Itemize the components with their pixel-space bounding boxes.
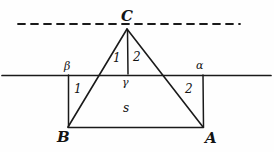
label-vertex-b: B: [57, 130, 70, 145]
diagram-canvas: [0, 0, 274, 152]
segment-alpha-a: [203, 75, 204, 127]
label-vertex-a: A: [205, 131, 217, 146]
segment-ca: [127, 29, 203, 127]
label-angle-alpha: α: [196, 60, 203, 71]
segment-c-gamma: [128, 30, 129, 74]
geometry-diagram: C B A β α γ 1 2 1 2 s: [0, 0, 274, 152]
label-area-s: s: [123, 102, 129, 114]
label-angle-gamma: γ: [122, 77, 129, 88]
label-subangle-2: 2: [133, 51, 141, 63]
label-subangle-1: 1: [113, 52, 121, 64]
segment-cb: [68, 29, 127, 127]
label-side-2: 2: [185, 83, 193, 95]
label-side-1: 1: [74, 83, 82, 95]
label-apex-c: C: [121, 9, 133, 24]
label-angle-beta: β: [64, 61, 70, 72]
